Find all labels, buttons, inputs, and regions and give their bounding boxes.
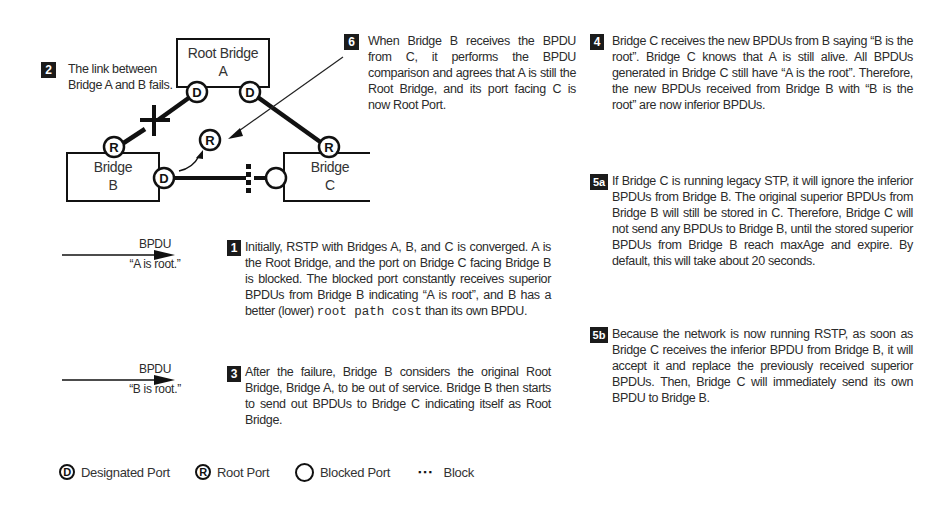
svg-text:R: R <box>109 140 119 155</box>
step4-badge: 4 <box>590 34 604 50</box>
bridge-a-label: Root Bridge A <box>177 44 269 80</box>
root-port-icon: R <box>104 137 124 157</box>
block-icon: ▪▪▪ <box>418 467 434 477</box>
step6-text: When Bridge B receives the BPDU from C, … <box>368 33 576 113</box>
svg-text:R: R <box>205 133 215 148</box>
bridge-b-title: Bridge <box>67 158 159 176</box>
svg-text:D: D <box>245 85 254 100</box>
legend-label: Root Port <box>217 465 269 480</box>
legend-label: Designated Port <box>81 465 170 480</box>
legend-label: Blocked Port <box>320 465 390 480</box>
step5a-text: If Bridge C is running legacy STP, it wi… <box>612 173 913 269</box>
step6-badge: 6 <box>344 34 359 50</box>
step3-text: After the failure, Bridge B considers th… <box>245 364 551 428</box>
step1-badge: 1 <box>227 240 241 256</box>
root-port-icon: R <box>319 137 339 157</box>
step2-text: The link between Bridge A and B fails. <box>68 61 178 93</box>
blocked-port-icon <box>266 168 286 188</box>
legend-designated-port: D Designated Port <box>59 462 170 482</box>
code-root-path-cost: root path cost <box>317 305 422 319</box>
block-icon <box>246 164 251 193</box>
bridge-c-label: Bridge C <box>284 158 376 194</box>
designated-port-icon: D <box>59 464 75 480</box>
bpdu-arrow-b-is-root: BPDU “B is root.” <box>62 362 177 398</box>
curved-arrow-icon <box>179 156 199 171</box>
svg-text:D: D <box>192 85 201 100</box>
legend-label: Block <box>444 465 474 480</box>
legend-root-port: R Root Port <box>195 462 269 482</box>
bridge-a-title: Root Bridge <box>177 44 269 62</box>
new-root-port-icon: R <box>200 130 220 150</box>
bridge-c-id: C <box>284 176 376 194</box>
step4-text: Bridge C receives the new BPDUs from B s… <box>612 33 913 113</box>
step5a-badge: 5a <box>590 174 608 190</box>
svg-text:R: R <box>324 140 334 155</box>
designated-port-icon: D <box>187 82 207 102</box>
bpdu-arrow-a-is-root: BPDU “A is root.” <box>62 237 177 273</box>
bpdu-content: “B is root.” <box>120 382 190 396</box>
step3-badge: 3 <box>227 366 241 382</box>
bridge-c-title: Bridge <box>284 158 376 176</box>
svg-text:D: D <box>159 171 168 186</box>
link-a-c <box>252 93 326 146</box>
root-port-icon: R <box>195 464 211 480</box>
step2-badge: 2 <box>41 62 56 78</box>
bridge-b-label: Bridge B <box>67 158 159 194</box>
bpdu-content: “A is root.” <box>120 257 190 271</box>
bridge-b-id: B <box>67 176 159 194</box>
designated-port-icon: D <box>240 82 260 102</box>
blocked-port-icon <box>295 463 314 482</box>
legend-blocked-port: Blocked Port <box>295 462 390 482</box>
step5b-badge: 5b <box>590 327 608 343</box>
step1-text: Initially, RSTP with Bridges A, B, and C… <box>245 239 551 320</box>
legend-block: ▪▪▪ Block <box>418 462 474 482</box>
bridge-a-id: A <box>177 62 269 80</box>
step5b-text: Because the network is now running RSTP,… <box>612 326 913 406</box>
